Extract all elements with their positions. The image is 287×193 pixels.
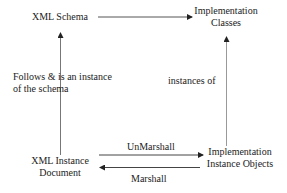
node-xml-instance-line2: Document [27,167,93,179]
edge-label-follows: Follows & is an instance of the schema [13,71,112,95]
node-xml-instance-line1: XML Instance [27,155,93,167]
edge-label-follows-line1: Follows & is an instance [13,71,112,83]
edge-label-marshall: Marshall [131,173,167,185]
node-implementation-classes-line2: Classes [193,17,259,29]
node-xml-instance-document: XML Instance Document [27,155,93,179]
node-impl-objects-line2: Instance Objects [204,158,276,170]
node-implementation-instance-objects: Implementation Instance Objects [204,146,276,170]
node-implementation-classes: Implementation Classes [193,5,259,29]
node-impl-objects-line1: Implementation [204,146,276,158]
edge-label-follows-line2: of the schema [13,83,112,95]
edge-label-unmarshall: UnMarshall [127,141,175,153]
node-xml-schema: XML Schema [32,11,88,23]
edge-label-instances-of: instances of [168,75,216,87]
node-implementation-classes-line1: Implementation [193,5,259,17]
